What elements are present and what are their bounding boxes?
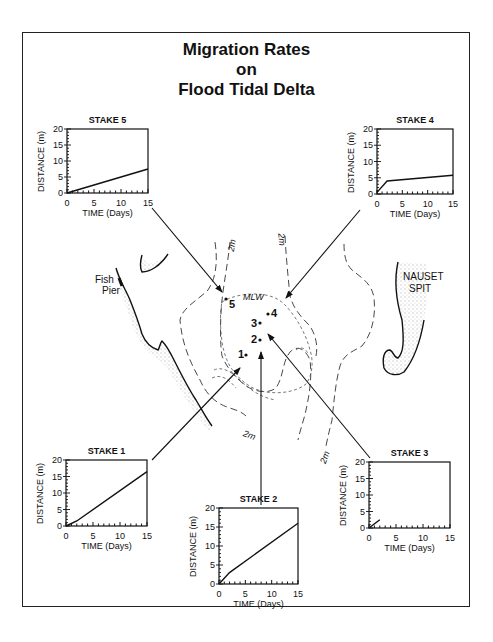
- y-tick-label: 0: [351, 523, 365, 534]
- y-tick-label: 15: [351, 474, 365, 485]
- y-tick-label: 10: [351, 490, 365, 501]
- y-axis-label: DISTANCE (m): [338, 456, 349, 536]
- x-axis-label: TIME (Days): [369, 543, 450, 554]
- y-tick-label: 5: [351, 507, 365, 518]
- y-tick-label: 20: [351, 457, 365, 468]
